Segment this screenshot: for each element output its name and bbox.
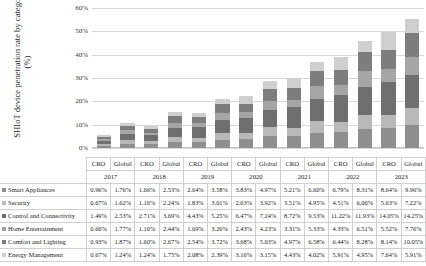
bar-segment-control-and-connectivity[interactable] [310,99,324,121]
bar-segment-home-entertainment[interactable] [381,69,395,82]
bar-segment-smart-appliances[interactable] [168,142,182,148]
bar-segment-control-and-connectivity[interactable] [334,95,348,121]
table-cell-value: 5.25% [208,210,232,223]
bar-segment-smart-appliances[interactable] [144,144,158,148]
stacked-bar[interactable] [215,99,229,148]
legend-item-smart-appliances[interactable]: Smart Appliances [0,184,87,197]
table-year-header: 2022 [329,171,377,184]
bar-segment-comfort-and-lighting[interactable] [287,88,301,100]
y-axis-tick-labels: 0%10%20%30%40%50%60% [62,8,88,148]
bar-segment-home-entertainment[interactable] [405,57,419,75]
stacked-bar[interactable] [120,123,134,148]
table-col-header-global: Global [159,158,183,171]
bar-segment-smart-appliances[interactable] [381,128,395,148]
table-cell-value: 4.95% [304,197,328,210]
stacked-bar[interactable] [381,32,395,148]
table-year-header: 2023 [377,171,426,184]
bar-segment-control-and-connectivity[interactable] [168,128,182,137]
table-cell-value: 1.69% [183,223,207,236]
bar-segment-security[interactable] [215,133,229,140]
bar-segment-control-and-connectivity[interactable] [287,107,301,127]
bar-segment-comfort-and-lighting[interactable] [239,104,253,113]
stacked-bar[interactable] [334,57,348,148]
bar-segment-energy-management[interactable] [405,19,419,33]
bar-segment-control-and-connectivity[interactable] [215,120,229,132]
bar-segment-control-and-connectivity[interactable] [358,87,372,115]
stacked-bar[interactable] [97,135,111,148]
stacked-bar[interactable] [287,78,301,148]
bar-segment-security[interactable] [287,128,301,136]
bar-segment-smart-appliances[interactable] [358,129,372,148]
legend-label: Energy Management [8,251,63,258]
bar-segment-home-entertainment[interactable] [310,86,324,98]
bar-segment-home-entertainment[interactable] [263,101,277,111]
bar-segment-security[interactable] [381,115,395,128]
stacked-bar[interactable] [310,62,324,148]
table-cell-value: 5.03% [256,236,280,249]
table-row: Home Entertainment0.66%1.77%1.10%2.44%1.… [0,223,426,236]
bar-segment-comfort-and-lighting[interactable] [381,50,395,69]
stacked-bar[interactable] [168,112,182,148]
legend-item-security[interactable]: Security [0,197,87,210]
bar-segment-energy-management[interactable] [310,62,324,71]
bar-segment-security[interactable] [310,121,324,133]
bar-segment-home-entertainment[interactable] [287,100,301,108]
bar-segment-comfort-and-lighting[interactable] [263,89,277,101]
bar-segment-smart-appliances[interactable] [192,142,206,148]
bar-segment-comfort-and-lighting[interactable] [358,52,372,71]
legend-item-comfort-and-lighting[interactable]: Comfort and Lighting [0,236,87,249]
legend-item-home-entertainment[interactable]: Home Entertainment [0,223,87,236]
stacked-bar[interactable] [239,96,253,148]
bar-segment-security[interactable] [334,122,348,133]
table-col-header-global: Global [256,158,280,171]
legend-item-control-and-connectivity[interactable]: Control and Connectivity [0,210,87,223]
bar-segment-smart-appliances[interactable] [287,136,301,148]
bar-segment-security[interactable] [405,108,419,125]
data-table-wrap: CROGlobalCROGlobalCROGlobalCROGlobalCROG… [0,157,426,262]
bar-segment-energy-management[interactable] [287,78,301,88]
legend-swatch-icon [2,214,6,218]
bar-segment-security[interactable] [263,127,277,136]
bar-segment-home-entertainment[interactable] [358,71,372,86]
bar-segment-control-and-connectivity[interactable] [381,82,395,115]
table-cell-value: 6.47% [232,210,256,223]
legend-item-energy-management[interactable]: Energy Management [0,249,87,262]
table-cell-value: 1.60% [135,236,159,249]
bar-segment-control-and-connectivity[interactable] [263,110,277,127]
bar-segment-smart-appliances[interactable] [263,136,277,148]
stacked-bar[interactable] [263,81,277,148]
bar-segment-smart-appliances[interactable] [310,133,324,148]
bar-segment-control-and-connectivity[interactable] [192,127,206,137]
bar-segment-home-entertainment[interactable] [215,113,229,121]
bar-segment-comfort-and-lighting[interactable] [310,71,324,86]
stacked-bar[interactable] [358,41,372,148]
table-cell-value: 9.96% [401,184,425,197]
bar-segment-energy-management[interactable] [334,57,348,71]
bar-segment-control-and-connectivity[interactable] [405,75,419,108]
table-cell-value: 7.24% [256,210,280,223]
bar-segment-home-entertainment[interactable] [334,85,348,95]
bar-segment-energy-management[interactable] [358,41,372,53]
bar-segment-energy-management[interactable] [381,32,395,50]
bar-segment-comfort-and-lighting[interactable] [405,33,419,56]
table-cell-value: 2.53% [159,184,183,197]
bar-segment-comfort-and-lighting[interactable] [215,104,229,113]
table-cell-value: 1.10% [135,223,159,236]
table-row: Security0.67%1.62%1.16%2.24%1.83%3.01%2.… [0,197,426,210]
bar-segment-control-and-connectivity[interactable] [239,118,253,133]
bar-segment-security[interactable] [358,115,372,129]
bar-segment-smart-appliances[interactable] [405,125,419,148]
stacked-bar[interactable] [192,113,206,148]
bar-segment-smart-appliances[interactable] [97,146,111,148]
bar-segment-energy-management[interactable] [239,96,253,103]
bar-segment-comfort-and-lighting[interactable] [334,70,348,85]
bar-segment-smart-appliances[interactable] [120,144,134,148]
table-cell-value: 7.22% [401,197,425,210]
data-table: CROGlobalCROGlobalCROGlobalCROGlobalCROG… [0,157,426,262]
stacked-bar[interactable] [144,126,158,148]
bar-segment-smart-appliances[interactable] [239,139,253,148]
stacked-bar[interactable] [405,19,419,148]
bar-segment-smart-appliances[interactable] [215,140,229,148]
bar-segment-energy-management[interactable] [263,81,277,88]
bar-segment-smart-appliances[interactable] [334,132,348,148]
